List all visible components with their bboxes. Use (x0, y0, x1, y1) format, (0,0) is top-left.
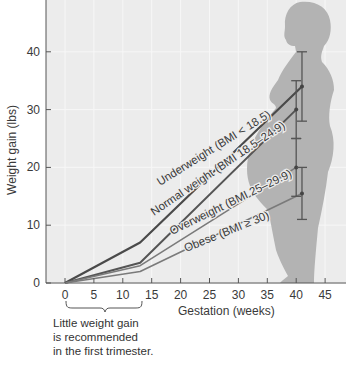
x-tick-label: 15 (145, 288, 159, 302)
endpoint-marker (300, 191, 304, 195)
first-trimester-note: Little weight gain is recommended in the… (53, 316, 153, 358)
y-tick-label: 40 (27, 45, 41, 59)
x-axis-label: Gestation (weeks) (178, 304, 275, 318)
x-tick-label: 5 (91, 288, 98, 302)
x-tick-label: 40 (290, 288, 304, 302)
note-line-3: in the first trimester. (53, 344, 153, 358)
first-trimester-brace (66, 301, 142, 312)
x-tick-label: 35 (261, 288, 275, 302)
x-tick-label: 20 (174, 288, 188, 302)
endpoint-marker (294, 108, 298, 112)
y-tick-label: 0 (33, 276, 40, 290)
x-tick-label: 25 (203, 288, 217, 302)
x-tick-label: 10 (116, 288, 130, 302)
y-tick-label: 30 (27, 103, 41, 117)
x-tick-label: 0 (62, 288, 69, 302)
y-tick-label: 10 (27, 218, 41, 232)
x-tick-label: 45 (318, 288, 332, 302)
x-tick-label: 30 (232, 288, 246, 302)
endpoint-marker (300, 84, 304, 88)
y-tick-label: 20 (27, 160, 41, 174)
weight-gain-chart: Underweight (BMI < 18.5)Normal weight (B… (0, 0, 352, 370)
y-axis-label: Weight gain (lbs) (5, 105, 19, 195)
note-line-1: Little weight gain (53, 316, 153, 330)
note-line-2: is recommended (53, 330, 153, 344)
